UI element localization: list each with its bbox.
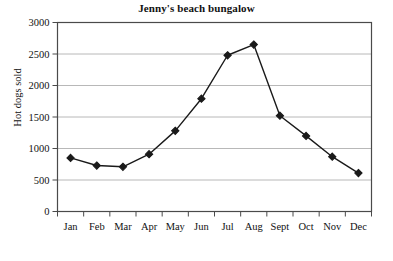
x-tick-label: Sept — [271, 221, 290, 232]
x-tick-label: May — [166, 221, 186, 232]
data-point-marker — [250, 41, 257, 48]
x-tick-labels-group: JanFebMarAprMayJunJulAugSeptOctNovDec — [64, 221, 368, 232]
x-tick-label: Oct — [298, 221, 313, 232]
data-point-marker — [67, 154, 74, 161]
x-tick-label: Aug — [245, 221, 264, 232]
x-tick-label: Mar — [114, 221, 132, 232]
line-chart-plot: 050010001500200025003000 JanFebMarAprMay… — [0, 0, 393, 261]
x-tick-label: Jun — [194, 221, 209, 232]
chart-container: Jenny's beach bungalow Hot dogs sold 050… — [0, 0, 393, 261]
data-point-marker — [224, 52, 231, 59]
y-tick-label: 2500 — [29, 49, 50, 60]
data-point-marker — [93, 162, 100, 169]
x-tick-label: Jul — [221, 221, 233, 232]
y-tick-label: 1500 — [29, 112, 50, 123]
x-tick-marks-group — [58, 212, 372, 217]
x-tick-label: Apr — [141, 221, 158, 232]
gridlines-group — [58, 23, 372, 181]
x-tick-label: Nov — [323, 221, 342, 232]
y-tick-label: 3000 — [29, 17, 50, 28]
x-tick-label: Feb — [89, 221, 105, 232]
y-tick-marks-group — [53, 23, 58, 212]
y-tick-label: 0 — [44, 206, 49, 217]
data-line — [71, 45, 359, 174]
y-tick-label: 1000 — [29, 143, 50, 154]
data-point-marker — [355, 169, 362, 176]
y-tick-label: 2000 — [29, 80, 50, 91]
x-tick-label: Jan — [64, 221, 79, 232]
data-markers-group — [67, 41, 362, 177]
data-point-marker — [119, 163, 126, 170]
y-tick-labels-group: 050010001500200025003000 — [29, 17, 50, 217]
x-tick-label: Dec — [350, 221, 367, 232]
y-tick-label: 500 — [34, 175, 50, 186]
